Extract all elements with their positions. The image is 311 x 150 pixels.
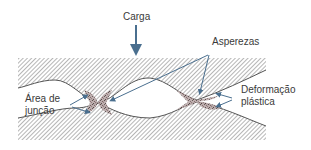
load-label: Carga [123,11,150,22]
plastic-deformation-label-line1: Deformação [241,84,295,95]
junction-area-label-line2: junção [25,105,54,116]
asperities-label: Asperezas [212,36,259,47]
deformation-pointer-2 [218,100,232,106]
lower-body [18,102,266,140]
deformation-pointer-1 [218,94,232,98]
junction-area-label-line1: Área de [25,93,60,104]
plastic-deformation-label-line2: plástica [241,96,275,107]
contact-diagram [0,0,311,150]
junction-pointer-1 [70,96,86,105]
